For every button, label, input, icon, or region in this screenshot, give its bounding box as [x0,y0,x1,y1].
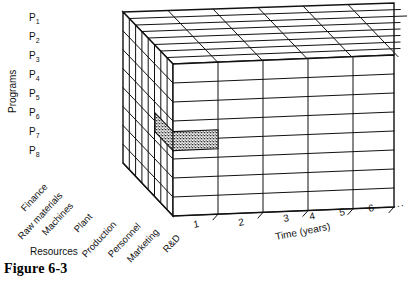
program-label: P4 [29,69,40,82]
figure-3d-matrix: P1 P2 P3 P4 P5 P6 P7 P8 Programs Finance… [0,0,415,282]
program-label: P1 [29,12,40,25]
program-label: P3 [29,50,40,63]
svg-text:Programs: Programs [7,70,18,113]
figure-caption: Figure 6-3 [4,261,68,277]
time-tick-label: 2 [237,216,245,228]
time-tick-label: 3 [282,212,290,224]
programs-axis-title: Programs [7,70,18,113]
top-face [123,3,407,64]
resource-label: R&D [160,232,182,254]
program-label: P6 [29,107,40,120]
time-axis-title: Time (years) [274,221,331,242]
time-continuation-label: ... [391,196,405,210]
program-axis-labels: P1 P2 P3 P4 P5 P6 P7 P8 [29,12,40,158]
time-tick-label: 1 [192,218,200,230]
program-label: P5 [29,88,40,101]
time-tick-label: 4 [308,210,316,222]
cube-diagram-svg: P1 P2 P3 P4 P5 P6 P7 P8 Programs Finance… [0,0,415,282]
program-label: P2 [29,31,40,44]
program-label: P8 [29,145,40,158]
program-label: P7 [29,126,40,139]
resources-axis-title: Resources [30,246,78,257]
resource-label: Plant [71,211,94,235]
